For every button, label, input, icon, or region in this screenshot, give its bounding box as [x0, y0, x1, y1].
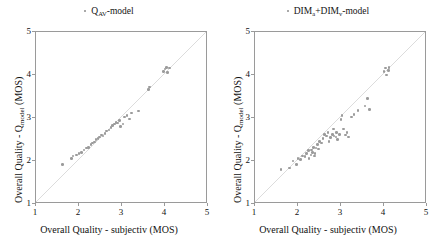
panel-right-title-main: DIM: [294, 6, 312, 16]
x-tick-mark: [383, 203, 384, 206]
y-tick-mark: [32, 31, 35, 32]
scatter-point: [104, 132, 107, 135]
scatter-point: [162, 70, 165, 73]
panel-left-title: QAV-model: [0, 5, 218, 18]
panel-left-title-suffix: -model: [107, 6, 134, 16]
y-axis-label-right-pre: Overall Quality - Q: [232, 125, 243, 203]
x-axis-label-left: Overall Quality - subjectiv (MOS): [0, 224, 218, 236]
plot-area-left: [35, 31, 207, 203]
y-tick-mark: [251, 203, 254, 204]
scatter-point: [166, 71, 169, 74]
panel-right-title-sub: a: [312, 10, 315, 17]
x-tick-label: 1: [244, 207, 264, 217]
x-tick-label: 4: [154, 207, 174, 217]
scatter-point: [353, 113, 356, 116]
y-tick-mark: [251, 160, 254, 161]
y-axis-label-right-post: (MOS): [232, 77, 243, 108]
scatter-point: [147, 88, 150, 91]
dot-marker-icon: [287, 10, 289, 12]
panel-q-av-model: QAV-model 1234512345 Overall Quality - s…: [0, 0, 218, 251]
scatter-point: [387, 69, 390, 72]
scatter-point: [87, 146, 90, 149]
scatter-point: [70, 157, 73, 160]
identity-line-right: [255, 32, 425, 202]
plot-area-right: [254, 31, 426, 203]
y-tick-mark: [251, 117, 254, 118]
scatter-point: [288, 167, 291, 170]
x-tick-mark: [121, 203, 122, 206]
dot-marker-icon: [84, 10, 86, 12]
scatter-point: [119, 125, 122, 128]
y-axis-label-left-post: (MOS): [13, 77, 24, 108]
y-tick-mark: [32, 74, 35, 75]
panel-right-title: DIMa+DIMv-model: [219, 5, 437, 18]
x-tick-mark: [207, 203, 208, 206]
x-tick-mark: [78, 203, 79, 206]
x-tick-mark: [340, 203, 341, 206]
scatter-point: [295, 163, 298, 166]
scatter-point: [328, 140, 331, 143]
y-tick-mark: [251, 31, 254, 32]
x-tick-label: 1: [25, 207, 45, 217]
y-tick-mark: [32, 203, 35, 204]
y-tick-mark: [251, 74, 254, 75]
scatter-point: [307, 149, 310, 152]
y-tick-label: 5: [236, 26, 250, 36]
x-tick-mark: [254, 203, 255, 206]
x-tick-mark: [297, 203, 298, 206]
scatter-point: [341, 114, 344, 117]
x-tick-mark: [164, 203, 165, 206]
panel-right-title-main2: +DIM: [315, 6, 339, 16]
scatter-point: [368, 108, 371, 111]
panel-right-title-sub2: v: [339, 10, 342, 17]
y-tick-mark: [32, 160, 35, 161]
x-tick-mark: [35, 203, 36, 206]
x-axis-label-right: Overall Quality - subjectiv (MOS): [219, 224, 437, 236]
x-tick-label: 2: [287, 207, 307, 217]
x-tick-label: 5: [416, 207, 436, 217]
y-axis-label-right: Overall Quality - Qmodel (MOS): [232, 77, 245, 203]
scatter-point: [305, 152, 308, 155]
scatter-point: [118, 119, 121, 122]
scatter-point: [316, 143, 319, 146]
scatter-point: [299, 158, 302, 161]
scatter-point: [366, 97, 369, 100]
y-axis-label-right-sub: model: [237, 107, 245, 125]
scatter-point: [128, 118, 131, 121]
x-tick-label: 3: [330, 207, 350, 217]
scatter-point: [322, 137, 325, 140]
scatter-point: [61, 163, 64, 166]
scatter-point: [338, 133, 341, 136]
scatter-point: [280, 168, 283, 171]
scatter-point: [80, 151, 83, 154]
x-tick-label: 2: [68, 207, 88, 217]
identity-line-left: [36, 32, 206, 202]
y-tick-label: 5: [17, 26, 31, 36]
panel-right-title-suffix: -model: [342, 6, 369, 16]
scatter-point: [336, 138, 339, 141]
x-tick-mark: [426, 203, 427, 206]
x-tick-label: 3: [111, 207, 131, 217]
scatter-point: [304, 155, 307, 158]
panel-left-title-sub: AV: [98, 10, 107, 17]
x-tick-label: 4: [373, 207, 393, 217]
y-axis-label-left: Overall Quality - Qmodel (MOS): [13, 77, 26, 203]
scatter-point: [313, 155, 316, 158]
panel-dim-a-dim-v-model: DIMa+DIMv-model 1234512345 Overall Quali…: [219, 0, 437, 251]
y-axis-label-left-pre: Overall Quality - Q: [13, 125, 24, 203]
y-axis-label-left-sub: model: [18, 107, 26, 125]
scatter-point: [130, 112, 133, 115]
y-tick-mark: [32, 117, 35, 118]
scatter-point: [320, 142, 323, 145]
figure-scatter-comparison: QAV-model 1234512345 Overall Quality - s…: [0, 0, 437, 251]
x-tick-label: 5: [197, 207, 217, 217]
